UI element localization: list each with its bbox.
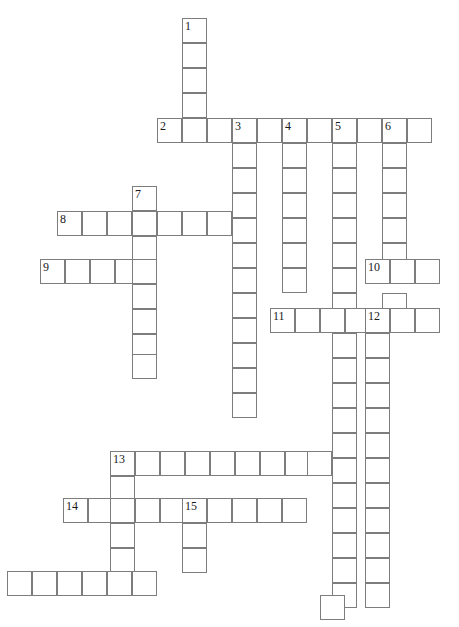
crossword-cell[interactable]	[157, 118, 182, 143]
crossword-cell[interactable]	[282, 168, 307, 193]
crossword-cell[interactable]	[365, 483, 390, 508]
crossword-cell[interactable]	[182, 18, 207, 43]
crossword-cell[interactable]	[332, 383, 357, 408]
crossword-cell[interactable]	[390, 259, 415, 284]
crossword-cell[interactable]	[160, 451, 185, 476]
crossword-cell[interactable]	[232, 268, 257, 293]
crossword-cell[interactable]	[32, 571, 57, 596]
crossword-cell[interactable]	[332, 558, 357, 583]
crossword-cell[interactable]	[382, 193, 407, 218]
crossword-cell[interactable]	[65, 259, 90, 284]
crossword-cell[interactable]	[182, 498, 207, 523]
crossword-cell[interactable]	[365, 333, 390, 358]
crossword-cell[interactable]	[332, 458, 357, 483]
crossword-cell[interactable]	[232, 168, 257, 193]
crossword-cell[interactable]	[382, 218, 407, 243]
crossword-cell[interactable]	[382, 168, 407, 193]
crossword-cell[interactable]	[232, 343, 257, 368]
crossword-cell[interactable]	[107, 571, 132, 596]
crossword-cell[interactable]	[365, 583, 390, 608]
crossword-cell[interactable]	[57, 571, 82, 596]
crossword-cell[interactable]	[232, 498, 257, 523]
crossword-cell[interactable]	[132, 309, 157, 334]
crossword-cell[interactable]	[182, 523, 207, 548]
crossword-cell[interactable]	[365, 433, 390, 458]
crossword-cell[interactable]	[235, 451, 260, 476]
crossword-cell[interactable]	[332, 533, 357, 558]
crossword-cell[interactable]	[260, 451, 285, 476]
crossword-cell[interactable]	[282, 268, 307, 293]
crossword-cell[interactable]	[332, 268, 357, 293]
crossword-cell[interactable]	[332, 408, 357, 433]
crossword-cell[interactable]	[415, 259, 440, 284]
crossword-cell[interactable]	[207, 118, 232, 143]
crossword-cell[interactable]	[365, 308, 390, 333]
crossword-cell[interactable]	[365, 533, 390, 558]
crossword-cell[interactable]	[110, 498, 135, 523]
crossword-cell[interactable]	[365, 383, 390, 408]
crossword-cell[interactable]	[182, 93, 207, 118]
crossword-cell[interactable]	[270, 308, 295, 333]
crossword-cell[interactable]	[282, 218, 307, 243]
crossword-cell[interactable]	[7, 571, 32, 596]
crossword-cell[interactable]	[110, 451, 135, 476]
crossword-cell[interactable]	[182, 68, 207, 93]
crossword-cell[interactable]	[365, 358, 390, 383]
crossword-cell[interactable]	[357, 118, 382, 143]
crossword-cell[interactable]	[132, 354, 157, 379]
crossword-cell[interactable]	[90, 259, 115, 284]
crossword-cell[interactable]	[307, 451, 332, 476]
crossword-cell[interactable]	[232, 368, 257, 393]
crossword-cell[interactable]	[57, 211, 82, 236]
crossword-grid[interactable]: 123456789101112131415	[0, 0, 459, 627]
crossword-cell[interactable]	[232, 318, 257, 343]
crossword-cell[interactable]	[232, 393, 257, 418]
crossword-cell[interactable]	[295, 308, 320, 333]
crossword-cell[interactable]	[232, 193, 257, 218]
crossword-cell[interactable]	[282, 193, 307, 218]
crossword-cell[interactable]	[332, 193, 357, 218]
crossword-cell[interactable]	[232, 218, 257, 243]
crossword-cell[interactable]	[320, 595, 345, 620]
crossword-cell[interactable]	[232, 293, 257, 318]
crossword-cell[interactable]	[365, 259, 390, 284]
crossword-cell[interactable]	[182, 43, 207, 68]
crossword-cell[interactable]	[332, 483, 357, 508]
crossword-cell[interactable]	[332, 333, 357, 358]
crossword-cell[interactable]	[157, 211, 182, 236]
crossword-cell[interactable]	[332, 218, 357, 243]
crossword-cell[interactable]	[257, 498, 282, 523]
crossword-cell[interactable]	[332, 118, 357, 143]
crossword-cell[interactable]	[132, 211, 157, 236]
crossword-cell[interactable]	[82, 211, 107, 236]
crossword-cell[interactable]	[257, 118, 282, 143]
crossword-cell[interactable]	[132, 186, 157, 211]
crossword-cell[interactable]	[207, 498, 232, 523]
crossword-cell[interactable]	[40, 259, 65, 284]
crossword-cell[interactable]	[110, 523, 135, 548]
crossword-cell[interactable]	[332, 358, 357, 383]
crossword-cell[interactable]	[135, 451, 160, 476]
crossword-cell[interactable]	[407, 118, 432, 143]
crossword-cell[interactable]	[332, 243, 357, 268]
crossword-cell[interactable]	[132, 236, 157, 261]
crossword-cell[interactable]	[132, 284, 157, 309]
crossword-cell[interactable]	[390, 308, 415, 333]
crossword-cell[interactable]	[282, 143, 307, 168]
crossword-cell[interactable]	[63, 498, 88, 523]
crossword-cell[interactable]	[282, 243, 307, 268]
crossword-cell[interactable]	[232, 243, 257, 268]
crossword-cell[interactable]	[107, 211, 132, 236]
crossword-cell[interactable]	[332, 143, 357, 168]
crossword-cell[interactable]	[365, 558, 390, 583]
crossword-cell[interactable]	[132, 259, 157, 284]
crossword-cell[interactable]	[232, 118, 257, 143]
crossword-cell[interactable]	[282, 118, 307, 143]
crossword-cell[interactable]	[207, 211, 232, 236]
crossword-cell[interactable]	[182, 118, 207, 143]
crossword-cell[interactable]	[332, 508, 357, 533]
crossword-cell[interactable]	[332, 433, 357, 458]
crossword-cell[interactable]	[382, 118, 407, 143]
crossword-cell[interactable]	[382, 143, 407, 168]
crossword-cell[interactable]	[110, 548, 135, 573]
